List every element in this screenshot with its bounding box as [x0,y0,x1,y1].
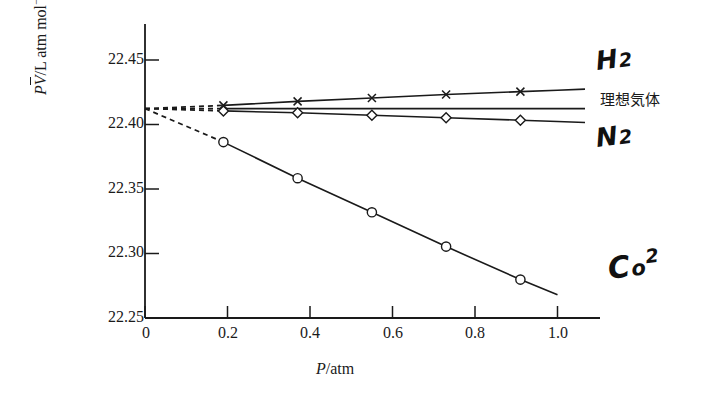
x-tick-label-1-0: 1.0 [536,324,580,342]
x-axis-title: P/atm [316,360,354,378]
x-tick-label-0-2: 0.2 [206,324,250,342]
y-axis-title: PV/L atm mol−1 [30,0,50,95]
y-axis-title-exponent: −1 [30,0,42,5]
y-axis-title-vbar: V [32,75,50,85]
y-axis-title-units: /L atm mol [32,5,49,76]
co2-dashed [145,109,223,143]
n2-label: N2 [594,119,634,153]
x-axis-title-units: /atm [326,360,354,377]
n2-curve [223,111,585,123]
figure-container: 22.45 22.40 22.35 22.30 22.25 0 0.2 0.4 … [0,0,708,399]
n2-label-sub: 2 [617,125,634,149]
y-axis-title-p: P [32,85,49,95]
x-tick-label-0-6: 0.6 [371,324,415,342]
h2-markers [219,88,524,110]
h2-label-main: H [594,43,620,76]
h2-curve [223,89,585,105]
h2-label: H2 [594,42,634,76]
x-tick-label-0: 0 [140,324,152,342]
h2-label-sub: 2 [617,48,634,72]
y-axis-ticks [145,60,159,318]
y-tick-label-22-25: 22.25 [78,308,144,326]
y-tick-label-22-40: 22.40 [78,114,144,132]
n2-label-main: N [594,120,620,153]
y-tick-label-22-45: 22.45 [78,50,144,68]
co2-label: Co2 [606,244,663,286]
co2-markers [219,138,525,285]
x-axis-title-symbol: P [316,360,326,377]
co2-curve [223,142,557,295]
co2-label-sub: 2 [644,244,661,268]
x-axis-ticks [145,306,558,318]
co2-label-c: C [606,248,633,286]
y-tick-label-22-30: 22.30 [78,243,144,261]
x-tick-label-0-4: 0.4 [288,324,332,342]
y-tick-label-22-35: 22.35 [78,179,144,197]
x-tick-label-0-8: 0.8 [453,324,497,342]
ideal-gas-label: 理想気体 [600,88,660,109]
y-axis-title-wrapper: PV/L atm mol−1 [30,0,52,95]
